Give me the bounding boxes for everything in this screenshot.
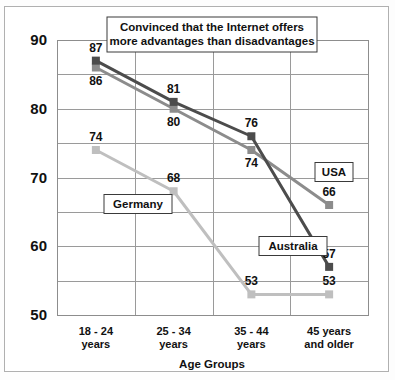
- x-tick-label-3: and older: [304, 338, 354, 350]
- x-tick-label-0: 18 - 24: [79, 325, 114, 337]
- x-axis-ticks: 18 - 24years25 - 34years35 - 44years45 y…: [79, 325, 355, 350]
- marker-australia-2: [247, 132, 255, 140]
- value-label-germany-3: 53: [322, 274, 336, 288]
- marker-australia-1: [170, 98, 178, 106]
- series-label-text: Australia: [268, 240, 318, 252]
- marker-australia-0: [92, 57, 100, 65]
- series-label-germany: Germany: [104, 195, 172, 214]
- marker-germany-3: [325, 290, 333, 298]
- value-label-germany-0: 74: [89, 130, 103, 144]
- y-axis-ticks: 5060708090: [30, 31, 47, 323]
- series-line-germany: [96, 150, 329, 294]
- marker-usa-2: [247, 146, 255, 154]
- vertical-gridlines: [136, 40, 291, 315]
- marker-usa-3: [325, 201, 333, 209]
- marker-usa-1: [170, 105, 178, 113]
- series-line-australia: [96, 61, 329, 267]
- value-label-usa-2: 74: [245, 156, 259, 170]
- x-tick-label-1: years: [159, 338, 188, 350]
- series-line-usa: [96, 68, 329, 206]
- chart-title-line2: more advantages than disadvantages: [109, 35, 314, 47]
- marker-usa-0: [92, 64, 100, 72]
- series-label-boxes: USAAustraliaGermany: [104, 163, 353, 256]
- chart-title: Convinced that the Internet offers more …: [107, 17, 317, 52]
- chart-screenshot: 5060708090 878176578680746674685353 18 -…: [0, 0, 395, 380]
- value-label-australia-1: 81: [167, 82, 181, 96]
- marker-germany-0: [92, 146, 100, 154]
- marker-germany-2: [247, 290, 255, 298]
- series-layer: [92, 57, 333, 299]
- chart-title-line1: Convinced that the Internet offers: [120, 21, 304, 33]
- series-label-text: Germany: [113, 198, 163, 210]
- value-label-australia-0: 87: [89, 41, 103, 55]
- value-label-australia-2: 76: [245, 116, 259, 130]
- series-label-text: USA: [322, 166, 346, 178]
- value-label-usa-1: 80: [167, 115, 181, 129]
- series-label-usa: USA: [315, 163, 353, 182]
- x-tick-label-3: 45 years: [307, 325, 351, 337]
- y-tick-label-80: 80: [30, 100, 47, 117]
- x-axis-title: Age Groups: [179, 358, 245, 370]
- value-label-germany-2: 53: [245, 274, 259, 288]
- x-tick-label-1: 25 - 34: [157, 325, 192, 337]
- y-tick-label-60: 60: [30, 237, 47, 254]
- x-tick-label-0: years: [81, 338, 110, 350]
- y-tick-label-90: 90: [30, 31, 47, 48]
- x-tick-label-2: years: [237, 338, 266, 350]
- value-label-germany-1: 68: [167, 171, 181, 185]
- series-label-australia: Australia: [259, 237, 327, 256]
- value-label-usa-3: 66: [322, 185, 336, 199]
- line-chart: 5060708090 878176578680746674685353 18 -…: [0, 0, 395, 380]
- y-tick-label-70: 70: [30, 169, 47, 186]
- y-tick-label-50: 50: [30, 306, 47, 323]
- x-tick-label-2: 35 - 44: [234, 325, 269, 337]
- value-label-usa-0: 86: [89, 74, 103, 88]
- marker-australia-3: [325, 263, 333, 271]
